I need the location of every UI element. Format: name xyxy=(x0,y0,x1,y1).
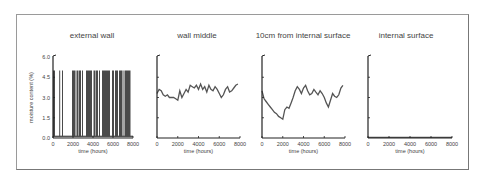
x-tick-label: 6000 xyxy=(318,141,330,147)
chart-panel-1: 02000400060008000time (hours)0.01.53.04.… xyxy=(28,54,139,154)
x-tick-label: 2000 xyxy=(383,141,395,147)
bar-segment xyxy=(99,71,100,137)
bar-segment xyxy=(79,71,81,137)
x-tick-label: 2000 xyxy=(67,141,79,147)
chart-panel-3: 02000400060008000time (hours) xyxy=(260,55,351,154)
bar-segment xyxy=(94,71,96,137)
bar-segment xyxy=(62,71,63,137)
bar-segment xyxy=(72,71,76,137)
x-tick-label: 8000 xyxy=(446,141,458,147)
bar-segment xyxy=(115,71,118,137)
bar-segment xyxy=(82,71,83,137)
x-tick-label: 0 xyxy=(155,141,158,147)
x-axis-label: time (hours) xyxy=(78,148,108,154)
x-axis-label: time (hours) xyxy=(184,148,214,154)
y-tick-label: 1.5 xyxy=(42,115,50,121)
x-tick-label: 6000 xyxy=(425,141,437,147)
x-tick-label: 4000 xyxy=(404,141,416,147)
charts-canvas: 02000400060008000time (hours)0.01.53.04.… xyxy=(0,0,484,180)
x-axis-label: time (hours) xyxy=(395,148,425,154)
y-tick-label: 3.0 xyxy=(42,95,50,101)
x-tick-label: 8000 xyxy=(339,141,351,147)
bar-segment xyxy=(102,71,110,137)
x-tick-label: 0 xyxy=(260,141,263,147)
bar-segment xyxy=(77,71,79,137)
x-tick-label: 6000 xyxy=(107,141,119,147)
data-line xyxy=(157,84,238,100)
x-tick-label: 4000 xyxy=(192,141,204,147)
x-tick-label: 2000 xyxy=(172,141,184,147)
bar-segment xyxy=(125,71,131,137)
x-tick-label: 0 xyxy=(366,141,369,147)
data-line xyxy=(262,85,343,119)
bar-segment xyxy=(59,71,60,137)
x-tick-label: 4000 xyxy=(87,141,99,147)
y-tick-label: 4.5 xyxy=(42,74,50,80)
x-axis-label: time (hours) xyxy=(289,148,319,154)
bar-segment xyxy=(119,71,123,137)
y-tick-label: 0.0 xyxy=(42,135,50,141)
x-tick-label: 8000 xyxy=(234,141,246,147)
x-tick-label: 0 xyxy=(51,141,54,147)
y-tick-label: 6.0 xyxy=(42,54,50,60)
bar-segment xyxy=(124,71,125,137)
chart-panel-2: 02000400060008000time (hours) xyxy=(155,55,246,154)
x-tick-label: 6000 xyxy=(213,141,225,147)
bar-segment xyxy=(96,71,98,137)
x-tick-label: 8000 xyxy=(127,141,139,147)
x-tick-label: 4000 xyxy=(297,141,309,147)
bar-segment xyxy=(86,71,92,137)
y-axis-label: moisture content (%) xyxy=(28,72,34,123)
bar-segment xyxy=(112,71,114,137)
x-tick-label: 2000 xyxy=(277,141,289,147)
chart-panel-4: 02000400060008000time (hours) xyxy=(366,55,458,154)
